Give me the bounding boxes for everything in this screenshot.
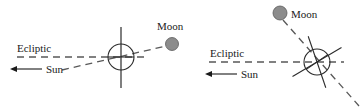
astronomy-figure: Ecliptic Sun Moon <box>0 0 364 111</box>
left-ecliptic-label: Ecliptic <box>17 42 51 54</box>
right-moon-orbit-line <box>283 20 359 106</box>
right-moon-circle <box>273 6 287 20</box>
right-panel: Ecliptic Sun Moon <box>205 6 359 106</box>
left-panel: Ecliptic Sun Moon <box>10 20 184 88</box>
figure-canvas: Ecliptic Sun Moon <box>0 0 364 111</box>
right-ecliptic-label: Ecliptic <box>210 47 244 59</box>
left-sun-arrow-head-icon <box>10 66 17 72</box>
right-sun-label: Sun <box>241 68 259 80</box>
left-moon-label: Moon <box>157 20 184 32</box>
left-moon-orbit-line <box>62 46 166 70</box>
right-sun-arrow-head-icon <box>205 71 212 77</box>
left-sun-label: Sun <box>46 63 64 75</box>
right-moon-label: Moon <box>291 8 318 20</box>
left-moon-circle <box>166 38 179 51</box>
